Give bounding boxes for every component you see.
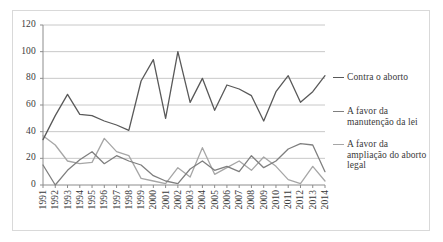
y-axis-tick-label: 60 [10,99,36,109]
legend-label: A favor da ampliação do aborto legal [347,139,426,171]
x-axis-tick-label: 2004 [197,190,207,209]
x-axis-tick-label: 2002 [173,190,183,209]
x-axis-tick-label: 2007 [234,190,244,209]
y-axis-tick-label: 100 [10,46,36,56]
x-axis-tick-label: 1997 [112,190,122,209]
x-axis-tick-label: 2013 [308,190,318,209]
x-axis-tick-label: 1998 [124,190,134,209]
x-axis-tick-label: 2008 [246,190,256,209]
series-line-1 [43,52,325,140]
y-axis-tick-label: 80 [10,72,36,82]
legend-line-swatch-icon [333,111,344,112]
legend-item-2[interactable]: A favor da manutenção da lei [333,106,418,127]
x-axis-tick-label: 2000 [148,190,158,209]
y-axis-tick-label: 120 [10,19,36,29]
x-axis-tick-label: 1994 [75,190,85,209]
x-axis-tick-label: 2003 [185,190,195,209]
y-axis-tick-label: 40 [10,126,36,136]
legend-label: A favor da manutenção da lei [347,106,418,127]
x-axis-tick-label: 2006 [222,190,232,209]
x-axis-tick-label: 1993 [63,190,73,209]
legend-item-1[interactable]: Contra o aborto [333,72,408,83]
legend-line-swatch-icon [333,77,344,78]
x-axis-tick-label: 2014 [320,190,330,209]
x-axis-tick-label: 2001 [161,190,171,209]
legend-label: Contra o aborto [347,72,408,83]
x-axis-tick-label: 2005 [210,190,220,209]
y-axis-tick-label: 0 [10,179,36,189]
x-axis-tick-label: 2009 [259,190,269,209]
x-axis-tick-label: 1999 [136,190,146,209]
x-axis-tick-label: 2010 [271,190,281,209]
legend-line-swatch-icon [333,144,344,145]
legend-item-3[interactable]: A favor da ampliação do aborto legal [333,139,426,171]
x-axis-tick-label: 1995 [87,190,97,209]
x-axis-tick-label: 1996 [99,190,109,209]
y-axis-tick-label: 20 [10,152,36,162]
x-axis-tick-label: 1992 [50,190,60,209]
x-axis-tick-label: 2011 [283,190,293,209]
series-line-2 [43,144,325,185]
x-axis-tick-label: 2012 [295,190,305,209]
x-axis-tick-label: 1991 [38,190,48,209]
